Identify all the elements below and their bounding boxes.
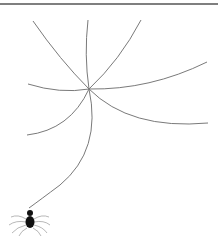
web-drawing: [0, 0, 222, 236]
web-strands: [27, 20, 208, 208]
spider-icon: [9, 210, 50, 236]
spider-web-illustration: [0, 0, 222, 236]
